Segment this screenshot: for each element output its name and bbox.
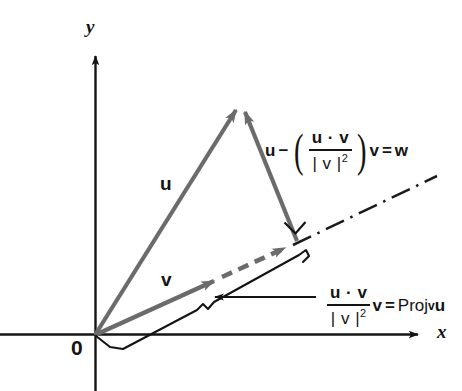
w-formula-equals: =	[379, 141, 395, 161]
y-axis-label: y	[86, 17, 94, 36]
w-formula-lead: u	[265, 141, 275, 161]
proj-formula-fraction: u · v | v |2	[325, 283, 372, 329]
proj-formula-trailing-vector: v	[372, 296, 381, 316]
w-formula-trailing-vector: v	[369, 141, 378, 161]
proj-formula-denominator: | v |2	[328, 306, 370, 329]
axes-group	[0, 56, 418, 391]
v-direction-extension-line	[293, 176, 437, 245]
proj-formula-result-operand: u	[435, 296, 445, 316]
proj-formula-result-prefix: Proj	[398, 296, 428, 316]
origin-label: 0	[71, 337, 83, 358]
w-formula-fraction: u · v | v |2	[307, 128, 354, 174]
w-denominator-text: | v |	[312, 154, 341, 173]
w-formula-result: w	[395, 141, 408, 161]
right-angle-icon	[285, 222, 306, 234]
close-paren-icon: )	[357, 132, 367, 170]
w-formula-denominator: | v |2	[309, 151, 351, 174]
proj-denominator-text: | v |	[331, 309, 360, 328]
proj-formula-numerator: u · v	[327, 283, 370, 304]
proj-denominator-exponent: 2	[360, 307, 367, 319]
proj-formula-result-subscript: v	[428, 299, 435, 313]
proj-formula: u · v | v |2 v = Projvu	[325, 283, 445, 329]
w-denominator-exponent: 2	[342, 152, 349, 164]
figure-canvas	[0, 0, 462, 391]
w-formula-numerator: u · v	[309, 128, 352, 149]
w-formula: u − ( u · v | v |2 ) v = w	[265, 128, 408, 174]
vector-u-label: u	[160, 174, 172, 193]
w-formula-minus: −	[275, 141, 291, 161]
vector-v-label: v	[161, 270, 172, 289]
proj-formula-equals: =	[382, 296, 398, 316]
vector-projection-figure: y x 0 u v u − ( u · v | v |2 ) v = w u ·…	[0, 0, 462, 391]
open-paren-icon: (	[294, 132, 304, 170]
projection-vector-dashed	[222, 248, 285, 277]
